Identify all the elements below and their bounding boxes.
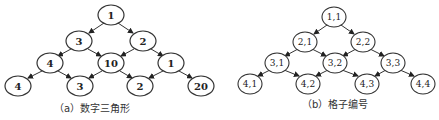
diagram-b-nodes: 1,1 2,1 2,2 3,1 3,2 3,3 4,1 4,2 4,3 4,4 bbox=[238, 7, 435, 94]
svg-text:3: 3 bbox=[77, 81, 84, 92]
node-b-3-2: 3,2 bbox=[323, 53, 347, 73]
node-a-3-3: 1 bbox=[158, 53, 184, 73]
node-a-2-1: 3 bbox=[66, 31, 92, 51]
node-a-1-1: 1 bbox=[98, 5, 124, 25]
node-a-3-1: 4 bbox=[37, 53, 63, 73]
svg-text:4,1: 4,1 bbox=[243, 79, 257, 89]
node-a-3-2: 10 bbox=[98, 53, 124, 73]
svg-text:3,1: 3,1 bbox=[270, 58, 284, 68]
node-a-2-2: 2 bbox=[130, 31, 156, 51]
node-a-4-3: 2 bbox=[127, 76, 153, 96]
node-b-3-3: 3,3 bbox=[381, 53, 405, 73]
svg-text:2: 2 bbox=[137, 81, 144, 92]
svg-text:3,3: 3,3 bbox=[386, 58, 401, 68]
node-b-3-1: 3,1 bbox=[265, 53, 289, 73]
node-b-2-2: 2,2 bbox=[351, 32, 375, 52]
svg-text:4: 4 bbox=[47, 58, 54, 69]
svg-text:4: 4 bbox=[15, 81, 22, 92]
svg-text:2,2: 2,2 bbox=[356, 37, 370, 47]
svg-text:1,1: 1,1 bbox=[327, 12, 341, 22]
node-b-4-3: 4,3 bbox=[355, 74, 379, 94]
node-a-4-2: 3 bbox=[67, 76, 93, 96]
svg-text:2: 2 bbox=[140, 36, 147, 47]
svg-text:2,1: 2,1 bbox=[298, 37, 312, 47]
svg-text:1: 1 bbox=[108, 10, 115, 21]
svg-text:20: 20 bbox=[194, 81, 208, 92]
node-b-4-2: 4,2 bbox=[296, 74, 320, 94]
svg-text:4,2: 4,2 bbox=[301, 79, 315, 89]
diagram-a-nodes: 1 3 2 4 10 1 4 3 2 20 bbox=[5, 5, 214, 96]
node-b-1-1: 1,1 bbox=[322, 7, 346, 27]
node-b-2-1: 2,1 bbox=[293, 32, 317, 52]
svg-text:10: 10 bbox=[104, 58, 118, 69]
node-b-4-4: 4,4 bbox=[411, 74, 435, 94]
node-b-4-1: 4,1 bbox=[238, 74, 262, 94]
caption-a: （a）数字三角形 bbox=[54, 100, 130, 115]
node-a-4-4: 20 bbox=[188, 76, 214, 96]
caption-b: （b）格子编号 bbox=[302, 96, 368, 111]
svg-text:4,4: 4,4 bbox=[416, 79, 431, 89]
svg-text:4,3: 4,3 bbox=[360, 79, 375, 89]
svg-text:1: 1 bbox=[168, 58, 175, 69]
node-a-4-1: 4 bbox=[5, 76, 31, 96]
svg-text:3: 3 bbox=[76, 36, 83, 47]
svg-text:3,2: 3,2 bbox=[328, 58, 342, 68]
